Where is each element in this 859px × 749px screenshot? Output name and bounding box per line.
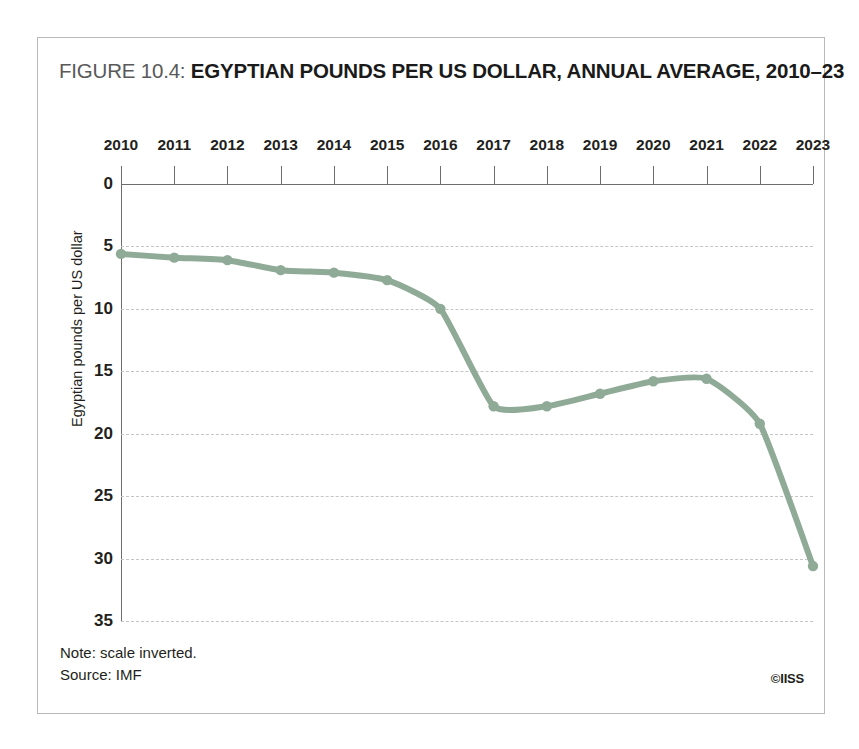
x-tick-2023 [813,166,814,184]
data-point-2015 [382,275,392,285]
x-tick-label-2023: 2023 [781,136,845,154]
data-point-2012 [222,255,232,265]
data-point-2018 [542,401,552,411]
y-axis-title: Egyptian pounds per US dollar [69,237,85,427]
x-tick-2012 [227,166,228,184]
x-axis: 2010201120122013201420152016201720182019… [121,38,813,184]
x-tick-2010 [121,166,122,184]
data-point-2020 [648,376,658,386]
data-point-2022 [755,419,765,429]
y-tick-label-0: 0 [67,174,113,194]
data-point-2016 [435,304,445,314]
x-tick-2017 [494,166,495,184]
x-tick-2011 [174,166,175,184]
x-tick-2018 [547,166,548,184]
series-line-0 [121,254,813,566]
chart-canvas: 2010201120122013201420152016201720182019… [38,38,826,715]
x-tick-2022 [760,166,761,184]
data-point-2013 [275,265,285,275]
plot-area [121,184,813,621]
data-point-2021 [701,374,711,384]
data-series-line [121,184,813,621]
data-point-2019 [595,389,605,399]
y-tick-label-30: 30 [67,549,113,569]
x-tick-2014 [334,166,335,184]
y-tick-label-25: 25 [67,486,113,506]
gridline-35 [121,621,813,622]
data-point-2017 [488,401,498,411]
x-tick-2015 [387,166,388,184]
data-point-2023 [808,561,818,571]
x-tick-2021 [707,166,708,184]
y-tick-label-35: 35 [67,611,113,631]
data-point-2011 [169,252,179,262]
data-point-2014 [329,267,339,277]
copyright-mark: ©IISS [771,671,804,686]
source-text: Source: IMF [60,664,197,686]
data-point-2010 [116,249,126,259]
x-tick-2013 [281,166,282,184]
x-tick-2019 [600,166,601,184]
x-tick-2020 [653,166,654,184]
figure-frame: FIGURE 10.4: EGYPTIAN POUNDS PER US DOLL… [37,37,825,714]
footer-notes: Note: scale inverted. Source: IMF [60,642,197,686]
note-text: Note: scale inverted. [60,642,197,664]
x-tick-2016 [440,166,441,184]
